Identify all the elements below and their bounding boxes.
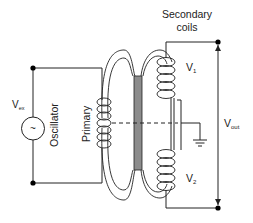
- node-top-right: [215, 39, 220, 44]
- v1-output-wire: [166, 42, 218, 58]
- outer-loop-right-top: [141, 50, 172, 76]
- v1-label: V1: [186, 61, 197, 74]
- secondary-coils-label-line1: Secondary: [162, 8, 213, 20]
- arrow-down-icon: [215, 199, 221, 205]
- node-bottom-right: [215, 205, 220, 210]
- node-bottom-left: [30, 180, 35, 185]
- inner-loop-left-bottom: [108, 128, 133, 190]
- secondary-coil-v2: [157, 150, 175, 191]
- primary-coil: [97, 98, 111, 148]
- ground-wire: [181, 123, 200, 140]
- ac-source-symbol: ~: [30, 123, 36, 134]
- v2-output-wire: [166, 190, 218, 208]
- inner-loop-left-top: [108, 58, 133, 118]
- vex-label: Vex: [12, 99, 25, 111]
- secondary-coil-v1: [157, 58, 175, 99]
- lvdt-diagram: ~ Vex Oscillator Primary: [0, 0, 253, 223]
- oscillator-label: Oscillator: [48, 103, 60, 147]
- node-top-left: [30, 65, 35, 70]
- v2-label: V2: [186, 172, 197, 185]
- vout-label: Vout: [224, 117, 240, 130]
- outer-loop-left-bottom: [102, 128, 135, 200]
- ground-icon: [193, 140, 207, 146]
- primary-label: Primary: [80, 105, 92, 142]
- output-circuit: Vout: [215, 39, 240, 210]
- arrow-up-icon: [215, 45, 221, 51]
- secondary-coils-label-line2: coils: [176, 21, 197, 33]
- excitation-circuit: ~ Vex Oscillator Primary: [12, 65, 102, 185]
